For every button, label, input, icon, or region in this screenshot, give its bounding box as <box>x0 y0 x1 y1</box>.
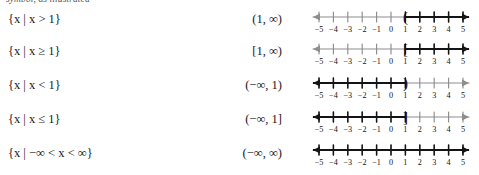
set-builder-notation: {x | x ≥ 1} <box>8 44 61 58</box>
svg-text:5: 5 <box>461 57 465 66</box>
table-row: {x | x > 1} (1, ∞) <box>0 12 300 42</box>
svg-text:−1: −1 <box>372 158 381 167</box>
svg-text:0: 0 <box>389 125 393 134</box>
svg-text:−3: −3 <box>343 158 352 167</box>
svg-text:0: 0 <box>389 25 393 34</box>
interval-notation: (−∞, ∞) <box>243 146 282 160</box>
svg-text:−2: −2 <box>358 125 367 134</box>
svg-text:5: 5 <box>461 125 465 134</box>
number-line-graph: ]−5−4−3−2−1012345 <box>300 104 479 138</box>
interval-notation: (−∞, 1] <box>245 112 282 126</box>
number-line-graph: (−5−4−3−2−1012345 <box>300 4 479 38</box>
svg-text:3: 3 <box>432 125 436 134</box>
svg-text:]: ] <box>403 109 408 125</box>
svg-text:−2: −2 <box>358 158 367 167</box>
svg-text:2: 2 <box>418 25 422 34</box>
svg-text:5: 5 <box>461 158 465 167</box>
table-row: {x | x ≤ 1} (−∞, 1] <box>0 112 300 142</box>
svg-text:−5: −5 <box>315 91 324 100</box>
table-row: {x | x ≥ 1} [1, ∞) <box>0 44 300 74</box>
svg-text:0: 0 <box>389 158 393 167</box>
number-line-graph: )−5−4−3−2−1012345 <box>300 70 479 104</box>
notation-table: {x | x > 1} (1, ∞) {x | x ≥ 1} [1, ∞) {x… <box>0 0 300 175</box>
svg-text:1: 1 <box>403 91 407 100</box>
svg-text:−4: −4 <box>329 125 338 134</box>
svg-text:0: 0 <box>389 57 393 66</box>
set-builder-notation: {x | x ≤ 1} <box>8 112 61 126</box>
svg-text:2: 2 <box>418 158 422 167</box>
svg-text:4: 4 <box>447 57 451 66</box>
svg-text:3: 3 <box>432 57 436 66</box>
svg-text:−3: −3 <box>343 91 352 100</box>
svg-text:−3: −3 <box>343 57 352 66</box>
svg-text:−2: −2 <box>358 91 367 100</box>
svg-text:5: 5 <box>461 25 465 34</box>
number-line-column: (−5−4−3−2−1012345 [−5−4−3−2−1012345 )−5−… <box>300 0 479 175</box>
interval-notation: (1, ∞) <box>252 12 282 26</box>
svg-text:3: 3 <box>432 158 436 167</box>
svg-text:−4: −4 <box>329 25 338 34</box>
table-row: {x | x < 1} (−∞, 1) <box>0 78 300 108</box>
svg-text:4: 4 <box>447 91 451 100</box>
svg-text:4: 4 <box>447 25 451 34</box>
svg-text:0: 0 <box>389 91 393 100</box>
svg-text:−1: −1 <box>372 25 381 34</box>
svg-text:−5: −5 <box>315 25 324 34</box>
svg-text:−4: −4 <box>329 91 338 100</box>
table-row: {x | −∞ < x < ∞} (−∞, ∞) <box>0 146 300 175</box>
svg-text:2: 2 <box>418 57 422 66</box>
svg-text:[: [ <box>403 41 408 57</box>
svg-text:4: 4 <box>447 158 451 167</box>
svg-text:−4: −4 <box>329 57 338 66</box>
svg-text:−5: −5 <box>315 158 324 167</box>
svg-text:−4: −4 <box>329 158 338 167</box>
svg-text:−1: −1 <box>372 57 381 66</box>
set-builder-notation: {x | x > 1} <box>8 12 61 26</box>
svg-text:1: 1 <box>403 25 407 34</box>
svg-text:2: 2 <box>418 125 422 134</box>
svg-text:3: 3 <box>432 91 436 100</box>
svg-text:−1: −1 <box>372 125 381 134</box>
svg-text:−2: −2 <box>358 57 367 66</box>
svg-text:4: 4 <box>447 125 451 134</box>
interval-notation: (−∞, 1) <box>245 78 282 92</box>
set-builder-notation: {x | x < 1} <box>8 78 61 92</box>
svg-text:5: 5 <box>461 91 465 100</box>
svg-text:−5: −5 <box>315 57 324 66</box>
svg-text:−1: −1 <box>372 91 381 100</box>
number-line-graph: [−5−4−3−2−1012345 <box>300 36 479 70</box>
set-builder-notation: {x | −∞ < x < ∞} <box>8 146 93 160</box>
svg-text:1: 1 <box>403 158 407 167</box>
svg-text:−3: −3 <box>343 25 352 34</box>
svg-text:−2: −2 <box>358 25 367 34</box>
svg-text:1: 1 <box>403 57 407 66</box>
number-line-graph: −5−4−3−2−1012345 <box>300 137 479 171</box>
interval-notation: [1, ∞) <box>252 44 282 58</box>
svg-text:2: 2 <box>418 91 422 100</box>
svg-text:−3: −3 <box>343 125 352 134</box>
figure-root: symbol, as illustrated {x | x > 1} (1, ∞… <box>0 0 479 175</box>
svg-text:3: 3 <box>432 25 436 34</box>
svg-text:1: 1 <box>403 125 407 134</box>
svg-text:−5: −5 <box>315 125 324 134</box>
